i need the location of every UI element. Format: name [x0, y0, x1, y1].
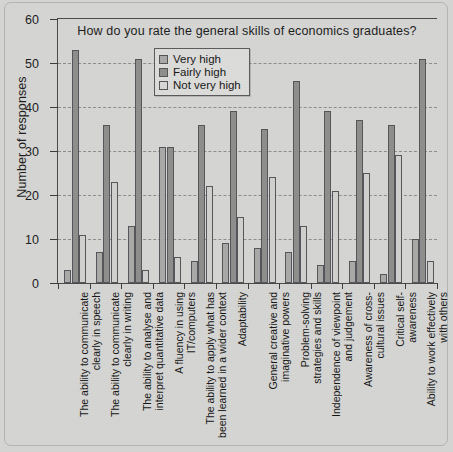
x-tick: [342, 283, 343, 289]
y-tick-label-10: 10: [25, 233, 39, 247]
y-tick-label-60: 60: [25, 13, 39, 27]
y-tick-label-50: 50: [25, 57, 39, 71]
bar: [111, 182, 118, 283]
legend-item[interactable]: Not very high: [159, 79, 241, 91]
y-tick-label-30: 30: [25, 145, 39, 159]
bar: [103, 125, 110, 283]
x-tick: [279, 283, 280, 289]
bar: [269, 177, 276, 283]
bar: [237, 217, 244, 283]
y-tick-50: 50: [50, 63, 58, 64]
bar: [230, 111, 237, 283]
y-tick-label-0: 0: [32, 277, 39, 291]
legend-label: Very high: [173, 54, 221, 65]
x-axis-category-label: Awareness of cross- cultural issues: [363, 292, 386, 450]
y-tick-60: 60: [50, 19, 58, 20]
x-axis-category-label: Adaptability: [237, 292, 249, 450]
x-tick: [405, 283, 406, 289]
bar-group: [374, 19, 406, 283]
bar: [174, 257, 181, 283]
bar: [349, 261, 356, 283]
bar: [79, 235, 86, 283]
bar: [317, 265, 324, 283]
bar: [332, 191, 339, 283]
y-tick-20: 20: [50, 195, 58, 196]
bar-group: [279, 19, 311, 283]
legend-label: Not very high: [173, 80, 241, 91]
chart-page: Number of responses 0102030405060 How do…: [0, 0, 453, 452]
x-axis-category-label: General creative and imaginative powers: [268, 292, 291, 450]
bar: [191, 261, 198, 283]
x-tick: [216, 283, 217, 289]
chart-legend: Very highFairly highNot very high: [154, 48, 250, 96]
bar: [254, 248, 261, 283]
bar-group: [58, 19, 90, 283]
x-axis-category-label: The ability to communicate clearly in sp…: [79, 292, 102, 450]
bar-group: [342, 19, 374, 283]
x-tick: [121, 283, 122, 289]
bar-group: [90, 19, 122, 283]
bar: [419, 59, 426, 283]
bar: [128, 226, 135, 283]
x-axis-category-label: Problem-solving strategies and skills: [300, 292, 323, 450]
x-axis-category-label: The ability to apply what has been learn…: [205, 292, 228, 450]
x-tick: [90, 283, 91, 289]
legend-swatch-icon: [159, 68, 168, 77]
legend-item[interactable]: Fairly high: [159, 66, 241, 78]
x-axis-category-label: A fluency in using IT/computers: [174, 292, 197, 450]
bar-group: [248, 19, 280, 283]
bar: [222, 243, 229, 283]
x-tick: [437, 283, 438, 289]
x-tick: [184, 283, 185, 289]
y-tick-label-20: 20: [25, 189, 39, 203]
bar: [142, 270, 149, 283]
x-axis-category-label: The ability to communicate clearly in wr…: [110, 292, 133, 450]
bar: [412, 239, 419, 283]
bar: [285, 252, 292, 283]
bar: [96, 252, 103, 283]
bar: [135, 59, 142, 283]
legend-swatch-icon: [159, 55, 168, 64]
bar: [388, 125, 395, 283]
chart-title: How do you rate the general skills of ec…: [58, 20, 436, 42]
bar: [293, 81, 300, 283]
bar: [72, 50, 79, 283]
y-tick-40: 40: [50, 107, 58, 108]
bar: [261, 129, 268, 283]
y-tick-10: 10: [50, 239, 58, 240]
bar: [363, 173, 370, 283]
y-tick-label-40: 40: [25, 101, 39, 115]
y-tick-30: 30: [50, 151, 58, 152]
legend-label: Fairly high: [173, 67, 226, 78]
bar: [64, 270, 71, 283]
x-tick: [311, 283, 312, 289]
x-axis-category-label: Critical self- awareness: [395, 292, 418, 450]
legend-swatch-icon: [159, 81, 168, 90]
x-tick: [374, 283, 375, 289]
bar: [380, 274, 387, 283]
bar-group: [311, 19, 343, 283]
x-tick: [153, 283, 154, 289]
bar: [427, 261, 434, 283]
bar: [300, 226, 307, 283]
bar-group: [405, 19, 437, 283]
bar: [159, 147, 166, 283]
x-axis-category-label: The ability to analyse and interpret qua…: [142, 292, 165, 450]
bar: [395, 155, 402, 283]
y-tick-0: 0: [50, 283, 58, 284]
legend-item[interactable]: Very high: [159, 53, 241, 65]
x-axis-category-label: Independence of viewpoint and judgement: [331, 292, 354, 450]
x-axis-category-labels: The ability to communicate clearly in sp…: [57, 292, 437, 450]
bar: [198, 125, 205, 283]
x-tick: [248, 283, 249, 289]
bar: [324, 111, 331, 283]
bar: [167, 147, 174, 283]
bar-group: [121, 19, 153, 283]
x-tick: [58, 283, 59, 289]
bar: [356, 120, 363, 283]
bar: [206, 186, 213, 283]
x-axis-category-label: Ability to work effectively with others: [426, 292, 449, 450]
